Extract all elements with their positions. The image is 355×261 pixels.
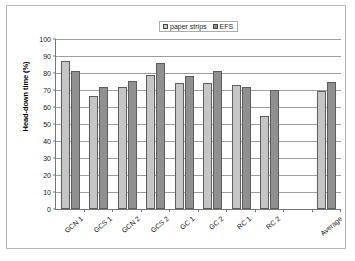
x-label-slot: GCN 1: [55, 211, 84, 257]
bar-group: [256, 39, 285, 209]
legend-item-efs: EFS: [213, 23, 234, 30]
x-tick-label: RC 1: [236, 215, 253, 231]
x-label-slot: Average: [312, 211, 341, 257]
y-tick-label: 40: [43, 138, 51, 145]
x-axis-labels: GCN 1GCS 1GCN 2GCS 2GC 1GC 2RC 1RC 2Aver…: [55, 211, 340, 257]
y-tick-label: 70: [43, 87, 51, 94]
y-tick-label: 60: [43, 104, 51, 111]
x-label-slot: GC 2: [198, 211, 227, 257]
bar-paper-strips[interactable]: [61, 61, 70, 209]
x-label-slot: GCS 2: [141, 211, 170, 257]
x-label-slot: GCN 2: [112, 211, 141, 257]
bar-group: [313, 39, 342, 209]
bar-efs[interactable]: [270, 90, 279, 209]
y-tick-label: 100: [39, 36, 51, 43]
bar-series-container: [56, 39, 341, 209]
x-label-slot: [283, 211, 312, 257]
bar-efs[interactable]: [156, 63, 165, 209]
bar-efs[interactable]: [327, 82, 336, 209]
y-tick-label: 0: [47, 206, 51, 213]
bar-paper-strips[interactable]: [232, 85, 241, 209]
x-label-slot: RC 1: [226, 211, 255, 257]
x-tick-mark: [340, 209, 341, 212]
bar-paper-strips[interactable]: [317, 91, 326, 209]
x-tick-label: Average: [319, 215, 343, 237]
x-label-slot: GC 1: [169, 211, 198, 257]
bar-group: [284, 39, 313, 209]
bar-paper-strips[interactable]: [175, 83, 184, 209]
bar-efs[interactable]: [71, 71, 80, 209]
bar-efs[interactable]: [185, 76, 194, 209]
y-axis-title: Head-down time (%): [21, 42, 30, 152]
y-tick-label: 10: [43, 189, 51, 196]
bar-efs[interactable]: [99, 87, 108, 209]
bar-paper-strips[interactable]: [146, 75, 155, 209]
x-tick-label: GCS 2: [149, 215, 170, 234]
bar-group: [199, 39, 228, 209]
gridline: [56, 209, 341, 210]
bar-group: [227, 39, 256, 209]
bar-paper-strips[interactable]: [89, 96, 98, 209]
chart-legend: paper strips EFS: [159, 21, 238, 32]
bar-group: [85, 39, 114, 209]
bar-group: [142, 39, 171, 209]
x-tick-label: GC 2: [207, 215, 224, 231]
bar-paper-strips[interactable]: [118, 87, 127, 209]
plot-area: 0102030405060708090100: [55, 39, 341, 210]
bar-paper-strips[interactable]: [203, 83, 212, 209]
legend-label: EFS: [220, 23, 234, 30]
chart-frame: paper strips EFS Head-down time (%) 0102…: [6, 5, 346, 249]
legend-swatch-icon: [213, 24, 218, 29]
legend-swatch-icon: [163, 24, 168, 29]
bar-efs[interactable]: [213, 71, 222, 209]
legend-item-paper-strips: paper strips: [163, 23, 207, 30]
bar-paper-strips[interactable]: [260, 116, 269, 210]
bar-group: [113, 39, 142, 209]
x-label-slot: GCS 1: [84, 211, 113, 257]
bar-group: [56, 39, 85, 209]
y-tick-label: 50: [43, 121, 51, 128]
x-tick-label: GCN 1: [64, 215, 85, 234]
y-tick-label: 80: [43, 70, 51, 77]
bar-group: [170, 39, 199, 209]
x-tick-label: GCN 2: [121, 215, 142, 234]
bar-efs[interactable]: [242, 87, 251, 209]
x-tick-label: GCS 1: [92, 215, 113, 234]
legend-label: paper strips: [170, 23, 207, 30]
bar-efs[interactable]: [128, 81, 137, 209]
y-tick-label: 90: [43, 53, 51, 60]
y-tick-label: 30: [43, 155, 51, 162]
y-tick-label: 20: [43, 172, 51, 179]
x-label-slot: RC 2: [255, 211, 284, 257]
x-tick-label: RC 2: [265, 215, 282, 231]
x-tick-label: GC 1: [179, 215, 196, 231]
